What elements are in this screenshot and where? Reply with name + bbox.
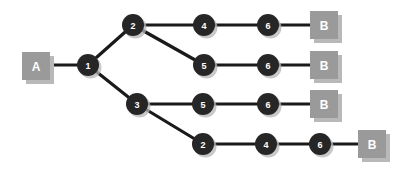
- box-fill: [358, 130, 386, 158]
- node-circle: [309, 133, 331, 155]
- node-circle: [257, 93, 279, 115]
- edges-layer: [50, 25, 360, 144]
- node-4-d[interactable]: 4: [255, 133, 280, 158]
- box-fill: [310, 51, 338, 79]
- network-path-diagram: ABBBB 123465656246: [0, 0, 406, 172]
- node-circle: [77, 54, 99, 76]
- node-2-d[interactable]: 2: [192, 133, 217, 158]
- node-4-a[interactable]: 4: [193, 14, 218, 39]
- node-6-b[interactable]: 6: [257, 54, 282, 79]
- box-fill: [22, 52, 50, 80]
- graph-canvas: ABBBB 123465656246: [0, 0, 406, 172]
- box-source-a[interactable]: A: [22, 52, 54, 84]
- node-circle: [193, 14, 215, 36]
- box-dest-b-3[interactable]: B: [310, 90, 342, 122]
- node-3[interactable]: 3: [126, 93, 151, 118]
- node-circle: [122, 14, 144, 36]
- node-6-a[interactable]: 6: [257, 14, 282, 39]
- node-6-d[interactable]: 6: [309, 133, 334, 158]
- node-5-c[interactable]: 5: [192, 93, 217, 118]
- node-circle: [257, 14, 279, 36]
- node-circle: [193, 54, 215, 76]
- node-circle: [192, 93, 214, 115]
- node-circle: [192, 133, 214, 155]
- node-5-b[interactable]: 5: [193, 54, 218, 79]
- node-circle: [257, 54, 279, 76]
- node-6-c[interactable]: 6: [257, 93, 282, 118]
- box-fill: [310, 90, 338, 118]
- box-fill: [310, 11, 338, 39]
- box-dest-b-2[interactable]: B: [310, 51, 342, 83]
- node-circle: [255, 133, 277, 155]
- node-circle: [126, 93, 148, 115]
- box-dest-b-4[interactable]: B: [358, 130, 390, 162]
- box-dest-b-1[interactable]: B: [310, 11, 342, 43]
- node-2-a[interactable]: 2: [122, 14, 147, 39]
